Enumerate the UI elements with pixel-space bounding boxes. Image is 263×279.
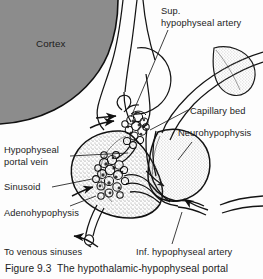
figure-caption: Figure 9.3 The hypothalamic-hypophyseal … [5,263,228,274]
arrow-into-primary-plexus [96,116,116,118]
median-eminence-crescent [213,47,255,96]
label-cortex: Cortex [36,38,65,50]
leader-capillary-bed [150,110,188,130]
label-superior-hypophyseal-artery: Sup. hypophyseal artery [161,6,241,29]
label-inferior-hypophyseal-artery: Inf. hypophyseal artery [136,247,232,259]
label-neurohypophysis: Neurohypophysis [178,128,251,140]
figure-container: Cortex Sup. hypophyseal artery Capillary… [0,0,263,279]
cortex-region [0,0,118,124]
label-hypophyseal-portal-vein: Hypophyseal portal vein [4,145,59,168]
inferior-artery-trunk [220,196,263,213]
neurohypophysis-lobe [148,129,210,201]
label-to-venous-sinuses: To venous sinuses [4,247,82,259]
label-sinusoid: Sinusoid [4,182,40,194]
label-capillary-bed: Capillary bed [190,106,246,118]
label-adenohypophysis: Adenohypophysis [4,208,79,220]
leader-inf-artery [172,212,182,244]
